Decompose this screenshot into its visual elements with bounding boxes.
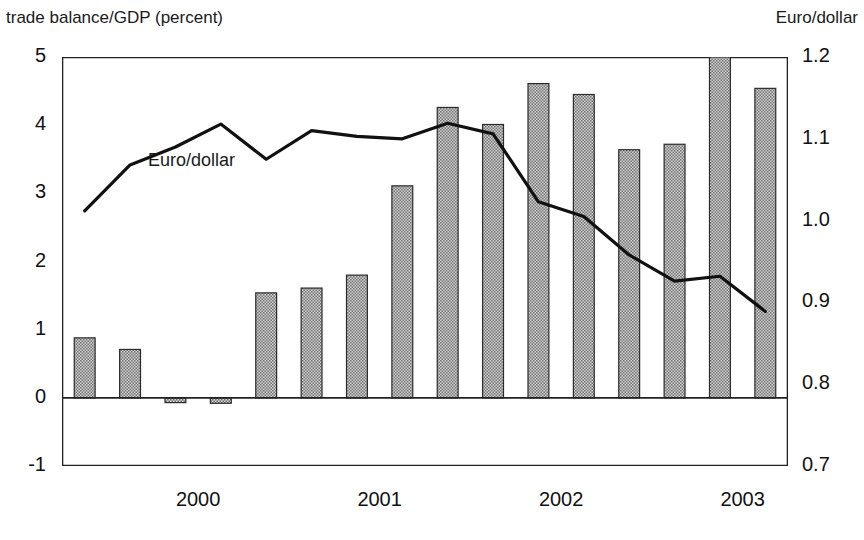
right-axis-tick-label: 0.8 bbox=[802, 371, 862, 394]
bar bbox=[392, 186, 413, 398]
bar bbox=[573, 94, 594, 397]
plot-area bbox=[62, 57, 788, 466]
right-axis-title: Euro/dollar bbox=[776, 8, 858, 28]
bar bbox=[256, 293, 277, 398]
x-axis-year-label: 2003 bbox=[683, 488, 803, 511]
chart-canvas bbox=[62, 57, 788, 466]
left-axis-tick-label: 3 bbox=[2, 180, 46, 203]
bar bbox=[619, 150, 640, 398]
right-axis-tick-label: 1.1 bbox=[802, 126, 862, 149]
left-axis-tick-label: 2 bbox=[2, 249, 46, 272]
left-axis-tick-label: -1 bbox=[2, 453, 46, 476]
left-axis-tick-label: 0 bbox=[2, 385, 46, 408]
bar-series bbox=[74, 57, 776, 403]
bar bbox=[301, 288, 322, 398]
bar bbox=[347, 275, 368, 398]
x-axis-year-label: 2002 bbox=[501, 488, 621, 511]
left-axis-tick-label: 1 bbox=[2, 317, 46, 340]
left-axis-title: trade balance/GDP (percent) bbox=[6, 8, 223, 28]
euro-dollar-line-label: Euro/dollar bbox=[148, 150, 235, 171]
chart-figure: trade balance/GDP (percent) Euro/dollar … bbox=[0, 0, 864, 540]
right-axis-tick-label: 1.0 bbox=[802, 208, 862, 231]
bar bbox=[437, 107, 458, 397]
bar bbox=[483, 124, 504, 397]
bar bbox=[120, 349, 141, 397]
bar bbox=[528, 84, 549, 398]
x-axis-year-label: 2000 bbox=[138, 488, 258, 511]
right-axis-tick-label: 0.7 bbox=[802, 453, 862, 476]
left-axis-tick-label: 4 bbox=[2, 112, 46, 135]
bar bbox=[755, 88, 776, 397]
x-axis-year-label: 2001 bbox=[320, 488, 440, 511]
right-axis-tick-label: 0.9 bbox=[802, 289, 862, 312]
bar bbox=[74, 338, 95, 398]
bar bbox=[210, 398, 231, 403]
right-axis-tick-label: 1.2 bbox=[802, 44, 862, 67]
left-axis-tick-label: 5 bbox=[2, 44, 46, 67]
bar bbox=[664, 144, 685, 398]
bar bbox=[710, 57, 731, 398]
